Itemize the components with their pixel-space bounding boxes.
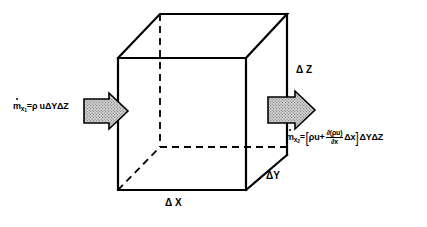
inlet-delta-y: ΔY: [45, 101, 57, 111]
outlet-delta-y: ΔY: [359, 132, 371, 142]
overdot-icon: [16, 98, 18, 100]
dimension-label-delta-y: ΔY: [266, 170, 280, 181]
mdot-symbol-outlet: m: [286, 132, 294, 142]
overdot-icon: [289, 129, 291, 131]
outlet-arrow: [268, 91, 315, 129]
cube-hidden-bottom-left-diagonal: [118, 147, 160, 190]
outlet-equals-sign: =: [300, 132, 305, 142]
outlet-mass-flow-equation: mx2=[ρu+∂(ρu)∂xΔx]ΔYΔZ: [286, 129, 383, 146]
outlet-plus-sign: +: [320, 132, 325, 142]
inlet-delta-z: ΔZ: [57, 101, 69, 111]
outlet-delta-z: ΔZ: [371, 132, 383, 142]
inlet-mass-flow-equation: mx1=ρ uΔYΔZ: [13, 101, 69, 113]
inlet-arrow: [84, 93, 128, 129]
partial-derivative-fraction: ∂(ρu)∂x: [326, 129, 344, 145]
outlet-bracket-close: ]: [356, 129, 359, 146]
m-symbol: m: [13, 101, 21, 111]
inlet-rho: ρ: [32, 101, 37, 111]
fraction-denominator: ∂x: [326, 138, 344, 145]
outlet-delta-x-inner: Δx: [344, 132, 355, 142]
mdot-symbol-inlet: m: [13, 101, 21, 111]
dimension-label-delta-z: Δ Z: [296, 64, 312, 75]
outlet-bracket-open: [: [305, 129, 308, 146]
control-volume-diagram: [0, 0, 427, 227]
outlet-rho-u: ρu: [309, 132, 320, 142]
cube-top-face-edges: [118, 14, 287, 58]
m-symbol: m: [286, 132, 294, 142]
delta-y-leader-line: [253, 173, 266, 184]
figure-canvas: mx1=ρ uΔYΔZ mx2=[ρu+∂(ρu)∂xΔx]ΔYΔZ Δ Z Δ…: [0, 0, 427, 227]
dimension-label-delta-x: Δ X: [165, 197, 182, 208]
fraction-numerator: ∂(ρu): [326, 129, 344, 137]
